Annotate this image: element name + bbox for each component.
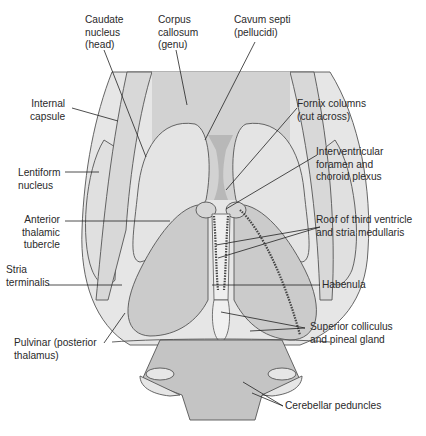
label-pulvinar: Pulvinar (posterior thalamus) <box>14 337 97 362</box>
label-corpus-callosum: Corpus callosum (genu) <box>158 14 198 52</box>
label-superior-colliculus: Superior colliculus and pineal gland <box>310 321 393 346</box>
label-cavum-septi: Cavum septi (pellucidi) <box>234 14 291 39</box>
label-internal-capsule: Internal capsule <box>30 98 65 123</box>
label-fornix-columns: Fornix columns (cut across) <box>297 98 366 123</box>
label-interventricular-foramen: Interventricular foramen and choroid ple… <box>316 146 383 184</box>
label-lentiform-nucleus: Lentiform nucleus <box>18 167 60 192</box>
label-cerebellar-peduncles: Cerebellar peduncles <box>285 400 381 413</box>
label-roof-third-ventricle: Roof of third ventricle and stria medull… <box>316 214 412 239</box>
label-caudate-nucleus: Caudate nucleus (head) <box>85 14 124 52</box>
label-stria-terminalis: Stria terminalis <box>6 264 50 289</box>
label-habenula: Habenula <box>322 279 366 292</box>
label-anterior-thalamic-tubercle: Anterior thalamic tubercle <box>22 214 60 252</box>
